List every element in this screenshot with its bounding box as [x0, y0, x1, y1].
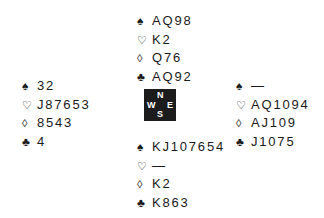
north-hearts-row: ♡K2: [137, 31, 192, 50]
west-clubs-row: ♣4: [22, 133, 90, 152]
east-diamonds: AJ109: [251, 115, 297, 130]
west-diamonds: 8543: [37, 115, 73, 130]
south-spades-row: ♠KJ107654: [137, 138, 225, 157]
south-diamonds: K2: [152, 176, 172, 191]
spade-icon: ♠: [137, 138, 152, 157]
north-hand: ♠AQ98 ♡K2 ◊Q76 ♣AQ92: [137, 12, 192, 86]
compass-south: S: [157, 110, 163, 119]
north-spades: AQ98: [152, 13, 192, 28]
compass: N W E S: [144, 89, 176, 121]
spade-icon: ♠: [137, 12, 152, 31]
east-diamonds-row: ◊AJ109: [236, 114, 310, 133]
diamond-icon: ◊: [137, 175, 152, 194]
north-diamonds-row: ◊Q76: [137, 49, 192, 68]
south-clubs: K863: [152, 195, 190, 210]
west-hearts: J87653: [37, 97, 90, 112]
club-icon: ♣: [137, 68, 152, 87]
compass-east: E: [167, 101, 173, 110]
south-hearts-row: ♡—: [137, 157, 225, 176]
heart-icon: ♡: [137, 31, 152, 50]
heart-icon: ♡: [137, 157, 152, 176]
south-clubs-row: ♣K863: [137, 194, 225, 213]
club-icon: ♣: [236, 133, 251, 152]
west-hand: ♠32 ♡J87653 ◊8543 ♣4: [22, 77, 90, 151]
west-diamonds-row: ◊8543: [22, 114, 90, 133]
club-icon: ♣: [22, 133, 37, 152]
west-spades-row: ♠32: [22, 77, 90, 96]
spade-icon: ♠: [236, 77, 251, 96]
west-spades: 32: [37, 78, 55, 93]
south-hand: ♠KJ107654 ♡— ◊K2 ♣K863: [137, 138, 225, 212]
east-hearts: AQ1094: [251, 97, 310, 112]
club-icon: ♣: [137, 194, 152, 213]
north-diamonds: Q76: [152, 50, 182, 65]
south-diamonds-row: ◊K2: [137, 175, 225, 194]
east-hearts-row: ♡AQ1094: [236, 96, 310, 115]
heart-icon: ♡: [22, 96, 37, 115]
east-hand: ♠— ♡AQ1094 ◊AJ109 ♣J1075: [236, 77, 310, 151]
east-clubs: J1075: [251, 134, 295, 149]
north-spades-row: ♠AQ98: [137, 12, 192, 31]
east-spades: —: [251, 78, 266, 93]
south-hearts: —: [152, 158, 167, 173]
south-spades: KJ107654: [152, 139, 225, 154]
east-spades-row: ♠—: [236, 77, 310, 96]
west-hearts-row: ♡J87653: [22, 96, 90, 115]
spade-icon: ♠: [22, 77, 37, 96]
west-clubs: 4: [37, 134, 46, 149]
compass-west: W: [147, 101, 156, 110]
diamond-icon: ◊: [236, 114, 251, 133]
north-clubs-row: ♣AQ92: [137, 68, 192, 87]
heart-icon: ♡: [236, 96, 251, 115]
diamond-icon: ◊: [22, 114, 37, 133]
diamond-icon: ◊: [137, 49, 152, 68]
north-hearts: K2: [152, 32, 172, 47]
compass-north: N: [157, 91, 164, 100]
north-clubs: AQ92: [152, 69, 192, 84]
east-clubs-row: ♣J1075: [236, 133, 310, 152]
